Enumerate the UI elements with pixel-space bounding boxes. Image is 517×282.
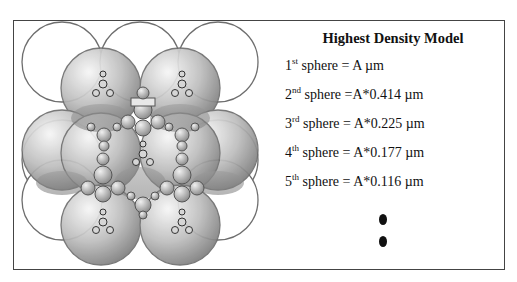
sphere-size-text: sphere = A*0.225 µm [300, 116, 425, 131]
sphere-size-text: sphere =A*0.414 µm [301, 87, 424, 102]
sphere-size-text: sphere = A*0.116 µm [299, 174, 424, 189]
legend-row-5: 5th sphere = A*0.116 µm [285, 171, 500, 200]
sphere-size-text: sphere = A*0.177 µm [299, 145, 424, 160]
sphere-size-text: sphere = A µm [298, 58, 384, 73]
legend-row-2: 2nd sphere =A*0.414 µm [285, 84, 500, 113]
ordinal-suffix: th [292, 143, 299, 153]
legend-row-1: 1st sphere = A µm [285, 55, 500, 84]
legend-panel: Highest Density Model 1st sphere = A µm … [285, 30, 500, 200]
continuation-dot-2 [379, 236, 387, 247]
ordinal-number: 4 [285, 145, 292, 160]
sphere-packing-diagram [14, 21, 274, 268]
legend-title: Highest Density Model [285, 30, 493, 47]
ordinal-suffix: th [292, 172, 299, 182]
legend-row-3: 3rd sphere = A*0.225 µm [285, 113, 500, 142]
legend-row-4: 4th sphere = A*0.177 µm [285, 142, 500, 171]
continuation-dot-1 [379, 214, 387, 225]
ordinal-number: 2 [285, 87, 292, 102]
ordinal-suffix: nd [292, 85, 301, 95]
ordinal-number: 1 [285, 58, 292, 73]
ordinal-suffix: rd [292, 114, 300, 124]
ordinal-number: 3 [285, 116, 292, 131]
ordinal-number: 5 [285, 174, 292, 189]
